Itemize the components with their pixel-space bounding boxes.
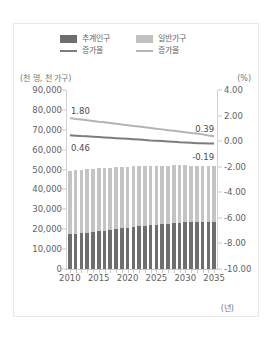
left-axis-tick-label: 20,000 (32, 225, 62, 234)
left-axis-tick-mark (62, 189, 66, 190)
chart-legend: 추계인구 일반가구 증가율 증가율 (14, 34, 258, 55)
legend-entry-household-bar: 일반가구 (136, 34, 212, 43)
left-axis-tick-mark (62, 109, 66, 110)
legend-row-bars: 추계인구 일반가구 (60, 34, 212, 43)
left-axis-tick-mark (62, 249, 66, 250)
left-axis-tick-label: 80,000 (32, 105, 62, 114)
left-axis-tick-mark (62, 90, 66, 91)
legend-row-lines: 증가율 증가율 (60, 46, 212, 55)
left-axis-tick-label: 40,000 (32, 185, 62, 194)
bar (132, 227, 136, 269)
value-annotation: 0.39 (195, 125, 214, 134)
right-axis-tick-label: 2.00 (224, 111, 243, 120)
legend-label-population: 추계인구 (82, 34, 110, 43)
bar (195, 222, 199, 269)
bar (91, 232, 95, 269)
chart-card: 추계인구 일반가구 증가율 증가율 (천 명, 천 가구) (%) (년) 90… (13, 23, 259, 317)
bar (137, 226, 141, 269)
left-axis-tick-label: 30,000 (32, 205, 62, 214)
left-axis-tick-label: 70,000 (32, 125, 62, 134)
left-axis-tick-mark (62, 169, 66, 170)
x-axis-tick-label: 2035 (203, 273, 225, 283)
x-axis-tick-mark (139, 270, 140, 273)
legend-line-population-growth (60, 50, 77, 52)
bar (97, 231, 101, 269)
bar (207, 222, 211, 269)
bar (68, 234, 72, 269)
bar (189, 222, 193, 269)
bar (108, 230, 112, 269)
value-annotation: -0.19 (192, 153, 214, 162)
line-population-growth (70, 135, 214, 143)
bar (74, 234, 78, 269)
x-axis-unit-label: (년) (221, 304, 234, 313)
bar (178, 223, 182, 269)
right-axis-tick-mark (218, 217, 222, 218)
right-axis-tick-mark (218, 166, 222, 167)
legend-line-household-growth (136, 50, 153, 52)
bar (103, 231, 107, 269)
x-axis-tick-mark (110, 270, 111, 273)
right-axis-tick-mark (218, 141, 222, 142)
right-axis-tick-label: 0.00 (224, 137, 243, 146)
x-axis-tick-mark (168, 270, 169, 273)
right-axis-tick-mark (218, 90, 222, 91)
bar (114, 229, 118, 269)
legend-swatch-population (60, 35, 77, 43)
legend-swatch-household (136, 35, 153, 43)
bar (201, 222, 205, 269)
bar (85, 233, 89, 269)
left-axis-unit-label: (천 명, 천 가구) (20, 74, 71, 83)
left-axis-tick-label: 60,000 (32, 145, 62, 154)
bar (80, 233, 84, 269)
line-household-growth (70, 118, 214, 136)
left-axis-tick-label: 10,000 (32, 245, 62, 254)
bar (160, 224, 164, 269)
legend-label-household-growth: 증가율 (158, 46, 179, 55)
left-axis-tick-mark (62, 269, 66, 270)
legend-entry-population-bar: 추계인구 (60, 34, 136, 43)
x-axis-tick-mark (81, 270, 82, 273)
bar (166, 224, 170, 269)
right-axis-tick-mark (218, 243, 222, 244)
right-axis-tick-label: -10.00 (224, 265, 251, 274)
right-axis-tick-label: 4.00 (224, 86, 243, 95)
legend-label-population-growth: 증가율 (82, 46, 103, 55)
value-annotation: 0.46 (71, 144, 90, 153)
bar (126, 228, 130, 269)
bar (212, 222, 216, 269)
x-axis-line (66, 269, 218, 270)
bar (155, 225, 159, 269)
legend-label-household: 일반가구 (158, 34, 186, 43)
right-axis-tick-mark (218, 269, 222, 270)
x-axis-tick-label: 2025 (146, 273, 168, 283)
right-axis-tick-label: -6.00 (224, 213, 246, 222)
left-axis-tick-label: 90,000 (32, 86, 62, 95)
right-axis-tick-label: -8.00 (224, 239, 246, 248)
left-axis-tick-mark (62, 149, 66, 150)
left-axis-tick-mark (62, 129, 66, 130)
bar (172, 223, 176, 269)
x-axis-tick-label: 2015 (88, 273, 110, 283)
right-axis-tick-mark (218, 115, 222, 116)
bar (183, 222, 187, 269)
left-axis-tick-mark (62, 229, 66, 230)
legend-entry-population-growth: 증가율 (60, 46, 136, 55)
x-axis-tick-mark (197, 270, 198, 273)
bar (149, 225, 153, 269)
left-axis-tick-label: 50,000 (32, 165, 62, 174)
legend-entry-household-growth: 증가율 (136, 46, 212, 55)
x-axis-tick-label: 2020 (117, 273, 139, 283)
bar (120, 228, 124, 269)
bar (143, 226, 147, 269)
right-axis-unit-label: (%) (237, 74, 251, 83)
right-axis-tick-label: -4.00 (224, 188, 246, 197)
right-axis-tick-mark (218, 192, 222, 193)
x-axis-tick-label: 2010 (59, 273, 81, 283)
left-axis-tick-mark (62, 209, 66, 210)
x-axis-tick-label: 2030 (174, 273, 196, 283)
plot-area (67, 90, 217, 269)
value-annotation: 1.80 (71, 107, 90, 116)
right-axis-tick-label: -2.00 (224, 162, 246, 171)
